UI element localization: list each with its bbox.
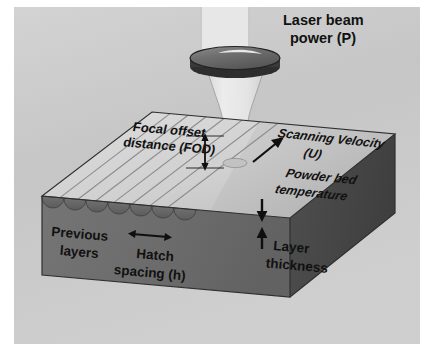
laser-power-line1: Laser beam — [283, 12, 364, 28]
schematic-svg: Laser beam power (P) Focal offset distan… — [0, 0, 434, 358]
laser-pbf-schematic-figure: Laser beam power (P) Focal offset distan… — [0, 0, 434, 358]
melt-pool-footprint — [223, 158, 247, 167]
laser-power-line2: power (P) — [290, 30, 356, 46]
focusing-lens-icon — [190, 47, 280, 79]
layer-thickness-line1: Layer — [273, 238, 311, 256]
